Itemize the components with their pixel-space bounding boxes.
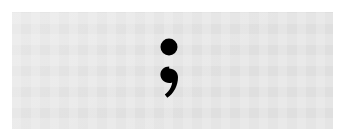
semicolon-comma-shape — [160, 66, 178, 97]
semicolon-icon — [149, 30, 191, 110]
image-canvas — [0, 0, 345, 138]
semicolon-dot-shape — [161, 39, 178, 56]
semicolon-glyph — [149, 30, 191, 110]
